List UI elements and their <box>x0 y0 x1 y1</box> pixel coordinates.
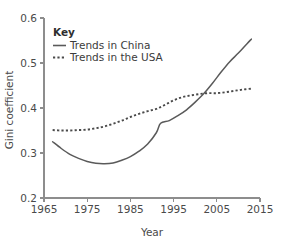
legend-label-1: Trends in China <box>69 39 150 51</box>
y-axis-tick-label: 0.6 <box>20 12 37 24</box>
chart-canvas: 0.20.30.40.50.6 196519751985199520052015… <box>0 0 284 241</box>
x-axis-tick-label: 1995 <box>160 203 187 215</box>
x-axis-tick-label: 2015 <box>247 203 274 215</box>
y-axis-tick-label: 0.4 <box>20 102 37 114</box>
x-axis-tick-label: 1975 <box>74 203 101 215</box>
x-axis-tick-label: 2005 <box>203 203 230 215</box>
series-line-trends-in-the-usa <box>53 89 252 131</box>
x-axis: 196519751985199520052015 <box>31 198 274 215</box>
y-axis-tick-label: 0.3 <box>20 147 37 159</box>
clipped-top-caption <box>58 0 238 3</box>
x-axis-tick-label: 1985 <box>117 203 144 215</box>
y-axis-tick-label: 0.2 <box>20 192 37 204</box>
legend-title: Key <box>53 26 75 38</box>
x-axis-tick-label: 1965 <box>31 203 58 215</box>
y-axis: 0.20.30.40.50.6 <box>20 12 44 204</box>
gini-coefficient-line-chart: 0.20.30.40.50.6 196519751985199520052015… <box>0 0 284 241</box>
legend-label-2: Trends in the USA <box>69 51 164 63</box>
y-axis-tick-label: 0.5 <box>20 57 37 69</box>
y-axis-title: Gini coefficient <box>3 71 15 150</box>
chart-legend: KeyTrends in ChinaTrends in the USA <box>53 26 164 63</box>
x-axis-title: Year <box>140 226 164 238</box>
